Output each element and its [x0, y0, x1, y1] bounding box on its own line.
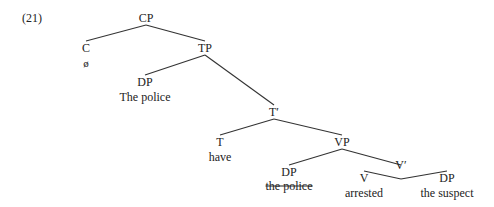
- edge-tbar-t: [220, 119, 274, 135]
- edge-vp-dp: [289, 149, 342, 165]
- edge-tp-tbar: [205, 55, 274, 105]
- node-dp-trace: DP: [281, 166, 296, 179]
- node-dp-object: DP: [439, 172, 454, 185]
- edge-cp-c: [86, 25, 146, 41]
- edge-cp-tp: [146, 25, 205, 41]
- node-v: V: [360, 172, 369, 185]
- node-vp: VP: [334, 136, 349, 149]
- edge-tbar-vp: [274, 119, 342, 135]
- word-the-suspect: the suspect: [421, 187, 474, 200]
- tree-edges: [0, 0, 494, 207]
- node-t: T: [216, 136, 223, 149]
- edge-tp-dp: [145, 55, 205, 75]
- word-arrested: arrested: [345, 187, 383, 200]
- node-tbar: T′: [269, 106, 279, 119]
- node-vbar: V′: [395, 159, 406, 172]
- node-dp-subject: DP: [137, 76, 152, 89]
- word-have: have: [209, 151, 232, 164]
- word-the-police: The police: [120, 91, 171, 104]
- edge-vp-vbar: [342, 149, 401, 165]
- node-c: C: [82, 42, 90, 55]
- node-tp: TP: [198, 42, 212, 55]
- edge-vbar-v: [364, 171, 401, 179]
- word-the-police-struck: the police: [266, 180, 313, 193]
- node-cp: CP: [139, 12, 154, 25]
- word-c-null: ø: [83, 57, 89, 70]
